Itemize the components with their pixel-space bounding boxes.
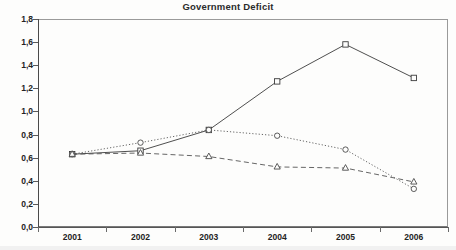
data-point-triangle-2003 [206,153,212,159]
data-point-square-2005 [343,42,348,47]
series-square-solid [69,42,416,157]
chart-series-layer [0,0,456,250]
data-point-circle-2004 [274,133,279,138]
series-line-circle [72,130,414,189]
series-triangle-dashed [69,150,417,184]
data-point-circle-2005 [343,147,348,152]
scan-artifact [0,246,456,250]
data-point-triangle-2006 [411,178,417,184]
data-point-circle-2002 [138,140,143,145]
data-point-triangle-2004 [274,163,280,169]
data-point-circle-2006 [411,186,416,191]
data-point-triangle-2005 [342,165,348,171]
series-circle-dotted [69,127,416,191]
data-point-square-2004 [274,79,279,84]
series-line-square [72,44,414,154]
series-line-triangle [72,153,414,182]
chart-screenshot: Government Deficit 0,00,20,40,60,81,01,2… [0,0,456,250]
data-point-square-2006 [411,75,416,80]
data-point-circle-2003 [206,127,211,132]
